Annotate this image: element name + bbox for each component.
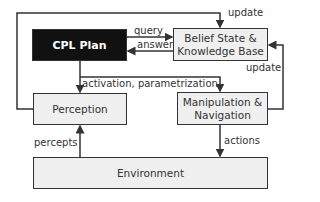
belief-state-node: Belief State & Knowledge Base <box>173 28 268 61</box>
update-top-edge-label: update <box>228 7 263 18</box>
manipulation-label-line1: Manipulation & <box>183 96 262 109</box>
perception-node: Perception <box>33 93 127 125</box>
manipulation-label-line2: Navigation <box>194 109 251 122</box>
environment-label: Environment <box>117 167 184 180</box>
belief-state-label-line2: Knowledge Base <box>177 45 264 58</box>
belief-state-label-line1: Belief State & <box>184 32 256 45</box>
cpl-plan-label: CPL Plan <box>52 39 106 52</box>
activation-edge-label: activation, parametrization <box>82 78 218 89</box>
perception-label: Perception <box>52 103 108 116</box>
environment-node: Environment <box>33 157 268 189</box>
cpl-plan-node: CPL Plan <box>32 29 127 61</box>
query-edge-label: query <box>134 25 163 36</box>
answer-edge-label: answer <box>137 39 173 50</box>
percepts-edge-label: percepts <box>34 137 78 148</box>
manipulation-navigation-node: Manipulation & Navigation <box>177 92 268 125</box>
update-right-edge-label: update <box>246 62 281 73</box>
actions-edge-label: actions <box>224 135 260 146</box>
